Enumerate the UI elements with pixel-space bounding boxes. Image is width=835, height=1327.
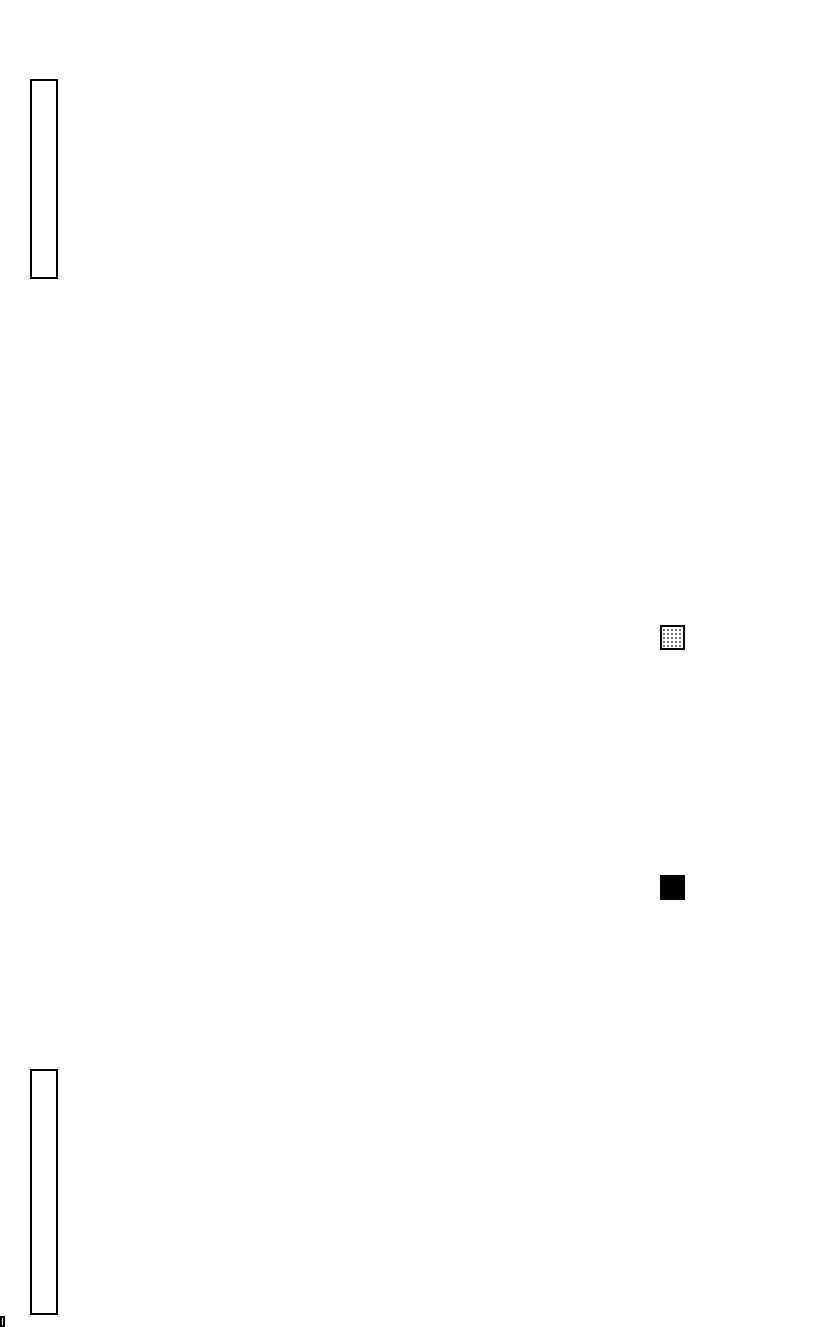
bar-chart: [0, 0, 835, 1327]
scanned-page: [0, 0, 835, 1327]
frequent-users-swatch: [660, 875, 685, 900]
chart-figure: [0, 0, 835, 1327]
party-table-column-header: [30, 1069, 58, 1315]
nonusers-swatch: [660, 625, 685, 650]
legend-frequent-users: [660, 865, 685, 900]
legend-nonusers: [660, 615, 685, 650]
bad-words-table: [0, 1316, 5, 1327]
danger-table-column-header: [30, 79, 58, 279]
